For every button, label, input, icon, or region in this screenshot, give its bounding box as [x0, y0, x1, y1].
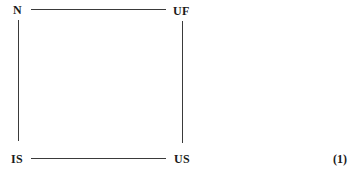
- edge-bottom-horizontal: [31, 158, 166, 159]
- edge-top-horizontal: [31, 9, 166, 10]
- node-top-left: N: [13, 4, 22, 16]
- edge-left-vertical: [18, 20, 19, 141]
- node-bottom-left: IS: [11, 153, 23, 165]
- node-top-right: UF: [173, 5, 190, 17]
- edge-right-vertical: [182, 21, 183, 143]
- node-bottom-right: US: [174, 153, 190, 165]
- equation-number: (1): [333, 153, 347, 165]
